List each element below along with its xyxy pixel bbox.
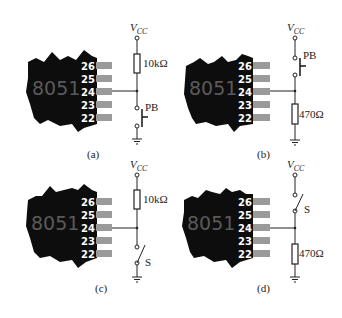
pin-26-label: 26 <box>81 197 95 208</box>
chip-label: 8051 <box>189 77 237 99</box>
pin-25-label: 25 <box>238 210 252 221</box>
chip-label: 8051 <box>32 77 80 99</box>
junction-dot <box>136 227 139 230</box>
pb-terminal-bottom <box>135 124 139 128</box>
vcc-label: VCC <box>287 158 305 173</box>
pin-23-label: 23 <box>81 236 95 247</box>
panel-a: 8051 26 25 24 23 22 VCC 10kΩ PB <box>26 21 168 161</box>
pb-terminal-top <box>293 56 297 60</box>
pin-22-label: 22 <box>238 249 252 260</box>
pin-stubs <box>253 198 270 257</box>
ground-icon <box>290 140 300 145</box>
pin-23-label: 23 <box>238 100 252 111</box>
pin-22-label: 22 <box>81 113 95 124</box>
switch-terminal-top <box>293 193 297 197</box>
ground-icon <box>290 277 300 282</box>
pin-24-label: 24 <box>238 223 252 234</box>
resistor-label: 10kΩ <box>143 57 168 69</box>
ground-icon <box>132 277 142 282</box>
resistor-label: 470Ω <box>299 247 324 259</box>
vcc-label: VCC <box>130 21 148 36</box>
caption-b: (b) <box>257 148 270 161</box>
panel-d: 8051 26 25 24 23 22 VCC S 470Ω (d) <box>182 158 324 295</box>
pin-stubs <box>96 62 112 121</box>
ground-icon <box>132 139 142 144</box>
pin-26-label: 26 <box>81 61 95 72</box>
pin-26-label: 26 <box>238 61 252 72</box>
junction-dot <box>294 227 297 230</box>
pin-25-label: 25 <box>81 74 95 85</box>
caption-c: (c) <box>95 282 108 295</box>
junction-dot <box>294 90 297 93</box>
schematic-figure: 8051 26 25 24 23 22 VCC 10kΩ PB <box>0 0 342 318</box>
pushbutton-label: PB <box>303 49 316 61</box>
pushbutton-label: PB <box>145 101 158 113</box>
switch-label: S <box>145 256 151 268</box>
switch-terminal-top <box>135 245 139 249</box>
vcc-terminal <box>293 36 297 40</box>
pin-24-label: 24 <box>238 87 252 98</box>
resistor-470 <box>292 104 298 124</box>
caption-a: (a) <box>87 148 100 161</box>
switch-label: S <box>304 203 310 215</box>
caption-d: (d) <box>257 282 270 295</box>
junction-dot <box>136 90 139 93</box>
panel-b: 8051 26 25 24 23 22 VCC PB 470Ω <box>184 21 324 161</box>
vcc-terminal <box>293 173 297 177</box>
pin-stubs <box>96 198 112 257</box>
pin-24-label: 24 <box>81 223 95 234</box>
pin-25-label: 25 <box>81 210 95 221</box>
vcc-label: VCC <box>287 21 305 36</box>
pin-25-label: 25 <box>238 74 252 85</box>
pin-22-label: 22 <box>238 113 252 124</box>
switch-s <box>137 245 145 263</box>
resistor-label: 470Ω <box>299 108 324 120</box>
resistor-470 <box>292 244 298 264</box>
resistor-10k <box>134 54 140 73</box>
resistor-label: 10kΩ <box>143 193 168 205</box>
pb-terminal-top <box>135 106 139 110</box>
chip-label: 8051 <box>187 212 235 234</box>
resistor-10k <box>134 190 140 209</box>
pin-23-label: 23 <box>238 236 252 247</box>
pin-stubs <box>253 62 270 121</box>
panel-c: 8051 26 25 24 23 22 VCC 10kΩ S (c) <box>26 158 168 295</box>
pb-terminal-bottom <box>293 73 297 77</box>
vcc-label: VCC <box>130 158 148 173</box>
vcc-terminal <box>135 36 139 40</box>
pin-22-label: 22 <box>81 249 95 260</box>
vcc-terminal <box>135 173 139 177</box>
pin-23-label: 23 <box>81 100 95 111</box>
pin-24-label: 24 <box>81 87 95 98</box>
pin-26-label: 26 <box>238 197 252 208</box>
chip-label: 8051 <box>31 212 79 234</box>
